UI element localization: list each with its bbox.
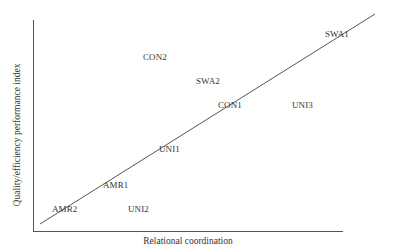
point-label-amr2: AMR2: [52, 204, 77, 214]
point-label-con1: CON1: [218, 100, 242, 110]
y-axis: [33, 20, 34, 232]
point-label-swa2: SWA2: [196, 76, 220, 86]
point-label-uni1: UNI1: [159, 144, 180, 154]
scatter-chart: Quality/efficiency performance index Rel…: [0, 0, 396, 250]
x-axis-label-text: Relational coordination: [143, 236, 232, 246]
y-axis-label: Quality/efficiency performance index: [12, 64, 22, 207]
point-label-uni2: UNI2: [128, 204, 149, 214]
x-axis: [33, 231, 343, 232]
point-label-swa1: SWA1: [325, 29, 349, 39]
point-label-amr1: AMR1: [103, 180, 128, 190]
x-axis-label: Relational coordination: [0, 236, 376, 246]
point-label-uni3: UNI3: [292, 100, 313, 110]
point-label-con2: CON2: [143, 52, 167, 62]
